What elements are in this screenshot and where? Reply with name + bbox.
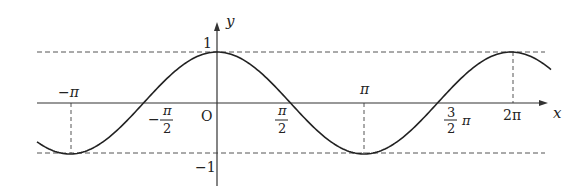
origin-label: O <box>201 108 212 124</box>
y-tick-minus-1: −1 <box>195 159 216 175</box>
x-axis-label: x <box>553 104 562 122</box>
x-tick-pi: π <box>359 81 370 97</box>
x-tick-three-half-pi-num: 3 <box>447 105 455 120</box>
cosine-graph: y x O 1 −1 −π − π 2 π 2 π 3 2 π 2π <box>0 0 576 186</box>
x-tick-half-pi-den: 2 <box>278 121 286 136</box>
x-tick-2pi: 2π <box>503 107 521 123</box>
y-tick-1: 1 <box>203 35 212 51</box>
x-tick-minus-half-pi-num: π <box>162 103 172 118</box>
y-axis-arrow-icon <box>214 22 220 31</box>
x-tick-minus-pi: −π <box>58 84 80 100</box>
x-tick-three-half-pi-den: 2 <box>447 121 455 136</box>
x-tick-half-pi-num: π <box>277 103 287 118</box>
x-axis-arrow-icon <box>539 100 548 106</box>
x-tick-three-half-pi-suffix: π <box>461 113 471 128</box>
x-tick-minus-half-pi-den: 2 <box>163 121 171 136</box>
x-tick-minus-half-pi-sign: − <box>148 111 160 127</box>
y-axis-label: y <box>225 12 235 30</box>
